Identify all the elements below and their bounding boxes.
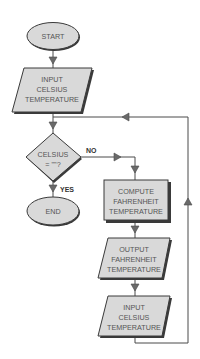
arrow-up-icon — [184, 198, 192, 205]
output-line-2: FAHRENHEIT — [111, 255, 157, 264]
compute-node: COMPUTE FAHRENHEIT TEMPERATURE — [104, 180, 171, 223]
input-celsius-node-2: INPUT CELSIUS TEMPERATURE — [98, 296, 172, 338]
arrow-down-icon — [131, 166, 139, 173]
flowchart: START INPUT CELSIUS TEMPERATURE CELSIUS … — [0, 0, 200, 359]
compute-line-1: COMPUTE — [118, 187, 154, 196]
arrow-right-icon — [114, 153, 121, 161]
start-label: START — [42, 32, 66, 41]
decision-node: CELSIUS = ""? — [26, 133, 82, 183]
arrow-down-icon — [131, 284, 139, 291]
output-line-3: TEMPERATURE — [107, 265, 161, 274]
output-line-1: OUTPUT — [119, 245, 149, 254]
compute-line-3: TEMPERATURE — [109, 207, 163, 216]
arrow-down-icon — [131, 226, 139, 233]
compute-line-2: FAHRENHEIT — [113, 197, 159, 206]
start-node: START — [27, 23, 80, 52]
input1-line-2: CELSIUS — [37, 85, 68, 94]
decision-line-1: CELSIUS — [38, 150, 69, 159]
end-label: END — [45, 207, 60, 216]
yes-label: YES — [60, 186, 74, 193]
input2-line-1: INPUT — [123, 303, 145, 312]
output-fahrenheit-node: OUTPUT FAHRENHEIT TEMPERATURE — [98, 238, 172, 280]
input2-line-2: CELSIUS — [119, 313, 150, 322]
end-node: END — [27, 197, 80, 227]
no-label: NO — [86, 147, 97, 154]
connector-no — [81, 157, 135, 180]
decision-line-2: = ""? — [45, 160, 60, 169]
arrow-left-icon — [122, 113, 129, 121]
input1-line-1: INPUT — [41, 75, 63, 84]
arrow-down-icon — [49, 57, 57, 64]
input-celsius-node: INPUT CELSIUS TEMPERATURE — [12, 68, 94, 114]
input1-line-3: TEMPERATURE — [25, 95, 79, 104]
arrow-down-icon — [49, 122, 57, 129]
input2-line-3: TEMPERATURE — [107, 323, 161, 332]
arrow-down-icon — [49, 185, 57, 192]
